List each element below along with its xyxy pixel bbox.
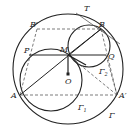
label-gamma: Γ bbox=[108, 111, 115, 120]
label-gamma2: Γ2 bbox=[98, 67, 108, 77]
label-Bprime: B′ bbox=[29, 20, 38, 29]
label-B: B bbox=[98, 20, 105, 29]
label-M: M bbox=[59, 45, 69, 54]
point-O bbox=[67, 73, 70, 76]
geometry-diagram: T B B′ M P Q O A A′ Γ2 Γ1 Γ bbox=[0, 0, 134, 135]
diagram-canvas: T B B′ M P Q O A A′ Γ2 Γ1 Γ bbox=[0, 0, 134, 135]
circle-gamma2 bbox=[68, 25, 110, 67]
label-Q: Q bbox=[108, 52, 115, 61]
label-gamma1: Γ1 bbox=[77, 103, 87, 113]
dashed-line-M-Aprime bbox=[68, 55, 117, 95]
tangent-line-T bbox=[76, 13, 120, 44]
label-O: O bbox=[65, 77, 72, 86]
label-A: A bbox=[10, 91, 17, 100]
label-Aprime: A′ bbox=[118, 91, 127, 100]
label-T: T bbox=[84, 4, 90, 13]
label-P: P bbox=[23, 46, 30, 55]
